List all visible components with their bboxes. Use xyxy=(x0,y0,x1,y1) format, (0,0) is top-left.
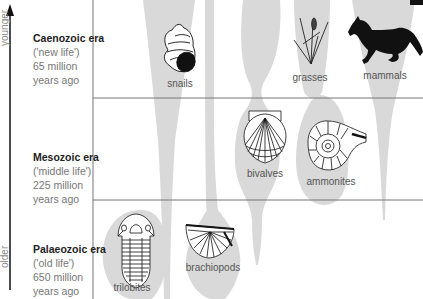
evolution-diagram: younger older Caenozoic era ('new life')… xyxy=(0,0,423,299)
ammonite-icon xyxy=(308,121,366,170)
label-snails: snails xyxy=(167,78,193,89)
brachiopod-icon xyxy=(186,225,234,258)
label-mammals: mammals xyxy=(363,70,406,81)
snail-icon xyxy=(164,24,198,74)
label-ammonites: ammonites xyxy=(307,176,356,187)
label-bivalves: bivalves xyxy=(247,168,283,179)
label-brachiopods: brachiopods xyxy=(186,262,240,273)
trilobite-icon xyxy=(118,214,154,288)
horse-icon xyxy=(348,16,423,64)
label-trilobites: trilobites xyxy=(113,282,150,293)
organism-illustrations xyxy=(0,0,423,299)
label-grasses: grasses xyxy=(292,72,327,83)
grasses-icon xyxy=(294,18,328,64)
bivalve-icon xyxy=(244,111,286,163)
